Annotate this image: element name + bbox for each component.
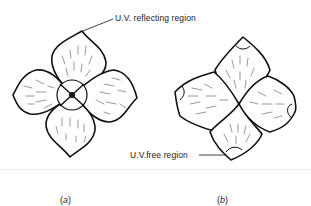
flower-b: [175, 37, 296, 160]
flower-a-center-dot: [69, 92, 75, 98]
uv-reflecting-label: U.V. reflecting region: [115, 13, 196, 23]
caption-b: (b): [217, 195, 228, 205]
flower-uv-diagram: U.V. reflecting region U.V.free region (…: [0, 0, 311, 206]
divider: [0, 169, 311, 170]
flower-a-center: [57, 80, 87, 110]
uv-free-label: U.V.free region: [130, 150, 188, 160]
caption-a: (a): [60, 195, 71, 205]
diagram-canvas: [0, 0, 311, 206]
uv-reflecting-leader: [83, 19, 113, 31]
